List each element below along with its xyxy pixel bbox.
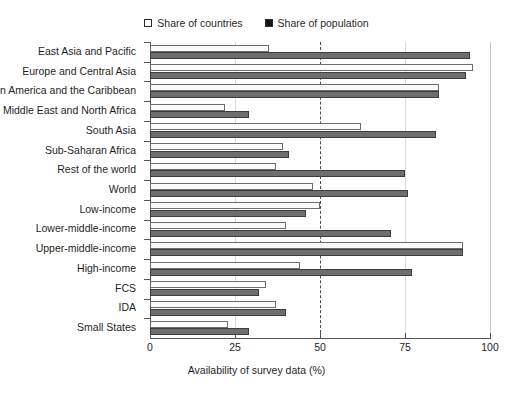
bar-population: [150, 52, 470, 59]
y-axis-label: IDA: [118, 302, 136, 313]
x-tick-100: [490, 333, 491, 339]
bar-countries: [150, 64, 473, 71]
y-axis-label: Small States: [77, 322, 136, 333]
x-tick-label-25: 25: [229, 341, 241, 353]
bar-row: [150, 180, 491, 199]
bar-population: [150, 289, 259, 296]
survey-data-availability-chart: Share of countries Share of population E…: [0, 0, 513, 393]
bar-row: [150, 42, 491, 61]
bar-population: [150, 170, 405, 177]
bar-row: [150, 141, 491, 160]
hollow-square-icon: [144, 19, 152, 27]
bar-population: [150, 72, 466, 79]
y-axis-label: World: [109, 184, 136, 195]
bar-countries: [150, 84, 439, 91]
cropped-header-text: [8, 0, 248, 9]
y-axis-label: Sub-Saharan Africa: [45, 145, 136, 156]
y-axis-label: Low-income: [79, 204, 136, 215]
bar-population: [150, 210, 306, 217]
bar-row: [150, 259, 491, 278]
bar-population: [150, 230, 391, 237]
bar-row: [150, 200, 491, 219]
bar-row: [150, 101, 491, 120]
x-tick-50: [320, 333, 321, 339]
x-tick-label-50: 50: [314, 341, 326, 353]
x-axis-title: Availability of survey data (%): [0, 364, 513, 376]
bar-row: [150, 299, 491, 318]
bar-row: [150, 62, 491, 81]
bar-countries: [150, 143, 283, 150]
bar-countries: [150, 321, 228, 328]
y-axis-label: Europe and Central Asia: [22, 66, 136, 77]
bar-population: [150, 269, 412, 276]
y-axis-label: East Asia and Pacific: [38, 46, 136, 57]
bar-row: [150, 279, 491, 298]
bar-countries: [150, 281, 266, 288]
bar-countries: [150, 45, 269, 52]
x-tick-0: [150, 333, 151, 339]
y-axis-label: Middle East and North Africa: [3, 105, 136, 116]
legend-item-share-of-population: Share of population: [265, 17, 369, 29]
y-axis-label: FCS: [115, 283, 136, 294]
bar-population: [150, 151, 289, 158]
x-tick-label-75: 75: [399, 341, 411, 353]
bar-row: [150, 220, 491, 239]
bar-countries: [150, 301, 276, 308]
bar-population: [150, 131, 436, 138]
bar-countries: [150, 262, 300, 269]
y-axis-label: South Asia: [86, 125, 136, 136]
y-axis-labels: East Asia and PacificEurope and Central …: [0, 42, 144, 338]
bar-countries: [150, 242, 463, 249]
legend-label-share-of-countries: Share of countries: [157, 17, 242, 29]
bar-row: [150, 121, 491, 140]
bar-population: [150, 309, 286, 316]
y-axis-label: Lower-middle-income: [36, 223, 136, 234]
filled-square-icon: [265, 19, 273, 27]
bar-countries: [150, 163, 276, 170]
bar-countries: [150, 202, 320, 209]
bar-population: [150, 91, 439, 98]
y-axis-label: High-income: [77, 263, 136, 274]
bar-countries: [150, 183, 313, 190]
x-tick-label-0: 0: [147, 341, 153, 353]
bar-population: [150, 328, 249, 335]
bar-row: [150, 81, 491, 100]
bar-rows: [150, 42, 491, 338]
bar-population: [150, 111, 249, 118]
chart-legend: Share of countries Share of population: [0, 17, 513, 29]
bar-countries: [150, 123, 361, 130]
y-axis-label: Rest of the world: [57, 164, 136, 175]
bar-row: [150, 239, 491, 258]
bar-row: [150, 160, 491, 179]
bar-countries: [150, 104, 225, 111]
x-tick-75: [405, 333, 406, 339]
x-tick-25: [235, 333, 236, 339]
bar-population: [150, 190, 408, 197]
legend-item-share-of-countries: Share of countries: [144, 17, 242, 29]
bar-countries: [150, 222, 286, 229]
bar-population: [150, 249, 463, 256]
legend-label-share-of-population: Share of population: [278, 17, 369, 29]
x-tick-label-100: 100: [481, 341, 499, 353]
y-axis-label: Upper-middle-income: [36, 243, 136, 254]
y-axis-label: Latin America and the Caribbean: [0, 85, 136, 96]
